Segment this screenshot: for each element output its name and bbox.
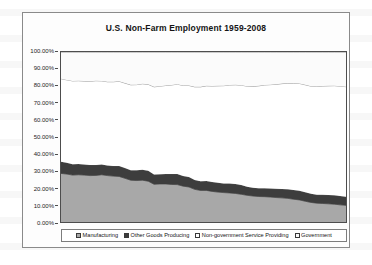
legend-entry[interactable]: Other Goods Producing [124,233,189,239]
legend-entry[interactable]: Non-government Service Providing [195,233,288,239]
y-axis-tick-label: 100.00% [30,48,54,54]
chart-title: U.S. Non-Farm Employment 1959-2008 [23,23,349,33]
y-axis-tick-mark [55,171,58,172]
legend-label: Non-government Service Providing [202,233,289,239]
y-axis-tick-mark [55,68,58,69]
stacked-area-plot [61,52,346,222]
legend-entry[interactable]: Government [295,233,332,239]
legend-label: Government [301,233,332,239]
y-axis-tick-label: 10.00% [34,203,54,209]
y-axis-tick-label: 70.00% [34,100,54,106]
legend-swatch-icon [195,233,200,238]
legend-entry[interactable]: Manufacturing [76,233,118,239]
y-axis-tick-mark [55,205,58,206]
y-axis-tick-label: 0.00% [37,220,54,226]
y-axis-tick-label: 90.00% [34,65,54,71]
y-axis-tick-mark [55,188,58,189]
y-axis-tick-mark [55,85,58,86]
legend-label: Other Goods Producing [131,233,190,239]
y-axis-tick-label: 80.00% [34,82,54,88]
y-axis-tick-mark [55,137,58,138]
plot-area [60,51,347,223]
y-axis-tick-label: 60.00% [34,117,54,123]
legend-swatch-icon [295,233,300,238]
legend-swatch-icon [124,233,129,238]
chart-legend: ManufacturingOther Goods ProducingNon-go… [61,229,347,242]
y-axis: 100.00%90.00%80.00%70.00%60.00%50.00%40.… [23,51,58,223]
chart-frame: U.S. Non-Farm Employment 1959-2008 100.0… [22,12,350,248]
y-axis-tick-label: 30.00% [34,168,54,174]
y-axis-tick-mark [55,119,58,120]
legend-swatch-icon [76,233,81,238]
y-axis-tick-mark [55,102,58,103]
y-axis-tick-mark [55,154,58,155]
y-axis-tick-mark [55,51,58,52]
y-axis-tick-mark [55,223,58,224]
y-axis-tick-label: 40.00% [34,151,54,157]
legend-label: Manufacturing [83,233,118,239]
y-axis-tick-label: 20.00% [34,186,54,192]
y-axis-tick-label: 50.00% [34,134,54,140]
